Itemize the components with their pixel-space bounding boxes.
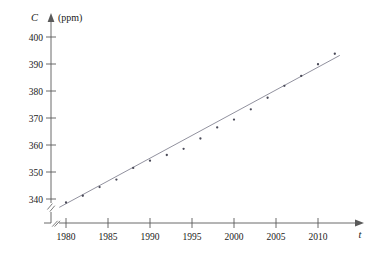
- x-axis-tick-labels: 1980 1985 1990 1995 2000 2005 2010: [57, 232, 328, 242]
- x-tick-label: 1980: [57, 232, 76, 242]
- data-point: [182, 148, 184, 150]
- y-axis-break-icon: [47, 204, 54, 212]
- data-point: [334, 53, 336, 55]
- y-tick-label: 370: [29, 114, 44, 124]
- data-point: [65, 201, 67, 203]
- x-axis: [44, 220, 364, 227]
- y-axis-title-symbol: C: [31, 12, 39, 23]
- data-point: [82, 195, 84, 197]
- data-point: [266, 97, 268, 99]
- x-tick-label: 2005: [267, 232, 286, 242]
- data-point: [283, 85, 285, 87]
- x-axis-arrowhead: [355, 220, 364, 227]
- data-point: [233, 118, 235, 120]
- y-tick-label: 400: [29, 33, 44, 43]
- y-tick-label: 360: [29, 141, 44, 151]
- regression-line: [59, 55, 340, 207]
- x-tick-label: 1995: [183, 232, 202, 242]
- x-axis-title: t: [359, 229, 363, 240]
- y-axis-title-units: (ppm): [58, 12, 82, 24]
- data-point: [317, 63, 319, 65]
- co2-scatter-chart: 400 390 380 370 360 350 340 C (ppm): [0, 0, 377, 263]
- data-point: [115, 178, 117, 180]
- y-axis-title: C (ppm): [31, 12, 82, 24]
- data-point: [199, 137, 201, 139]
- x-tick-label: 1990: [141, 232, 160, 242]
- data-point: [166, 154, 168, 156]
- y-tick-label: 350: [29, 168, 44, 178]
- x-tick-label: 2010: [309, 232, 328, 242]
- data-point: [98, 186, 100, 188]
- regression-line-segment: [59, 55, 340, 207]
- data-point: [149, 160, 151, 162]
- x-tick-label: 1985: [99, 232, 118, 242]
- x-tick-label: 2000: [225, 232, 244, 242]
- x-axis-break-icon: [52, 221, 60, 227]
- data-point: [250, 108, 252, 110]
- y-tick-label: 390: [29, 60, 44, 70]
- y-tick-label: 340: [29, 195, 44, 205]
- y-axis-tick-labels: 400 390 380 370 360 350 340: [29, 33, 44, 205]
- data-point: [132, 167, 134, 169]
- y-tick-label: 380: [29, 87, 44, 97]
- data-point-group: [65, 53, 336, 204]
- chart-canvas: 400 390 380 370 360 350 340 C (ppm): [0, 0, 377, 263]
- data-point: [216, 126, 218, 128]
- y-axis-arrowhead: [48, 13, 55, 22]
- data-point: [300, 75, 302, 77]
